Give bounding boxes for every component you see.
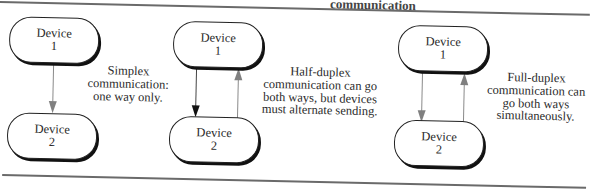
full-duplex-device-2: Device 2 [393, 120, 484, 168]
device-number: 2 [211, 140, 218, 153]
half-duplex-device-2: Device 2 [169, 116, 260, 164]
device-number: 2 [49, 136, 56, 149]
caption-line: one way only. [78, 89, 178, 104]
half-duplex-device-1: Device 1 [173, 21, 264, 69]
simplex-device-1: Device 1 [9, 16, 100, 64]
full-duplex-arrow-down-icon [417, 72, 426, 122]
device-number: 1 [215, 45, 222, 58]
full-duplex-arrow-up-icon [459, 73, 468, 123]
device-number: 1 [51, 40, 58, 53]
full-duplex-caption: Full-duplex communication can go both wa… [485, 71, 586, 124]
device-number: 2 [436, 144, 443, 157]
half-duplex-arrow-down-icon [191, 67, 200, 117]
simplex-caption: Simplex communication: one way only. [78, 64, 179, 105]
half-duplex-caption: Half-duplex communication can go both wa… [260, 65, 381, 119]
caption-line: simultaneously. [485, 109, 585, 124]
caption-line: must alternate sending. [260, 103, 380, 118]
full-duplex-device-1: Device 1 [398, 25, 489, 73]
communication-modes-figure: communication [0, 0, 590, 189]
half-duplex-arrow-up-icon [233, 68, 242, 118]
device-number: 1 [440, 49, 447, 62]
simplex-arrow-down-icon [49, 63, 58, 113]
simplex-device-2: Device 2 [7, 112, 98, 160]
